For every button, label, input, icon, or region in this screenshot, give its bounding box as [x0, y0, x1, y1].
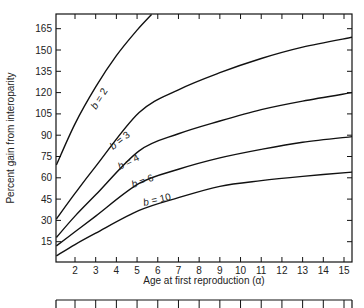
chart: 153045607590105120135150165 234567891011…	[0, 0, 364, 308]
x-tick-label: 12	[276, 265, 288, 276]
y-tick-label: 90	[41, 130, 53, 141]
lower-panel-frame	[56, 300, 352, 308]
curve	[56, 37, 352, 219]
top-axis-ticks	[75, 14, 344, 19]
curve	[56, 172, 352, 256]
curve-label: b = 4	[116, 152, 141, 172]
x-tick-label: 15	[338, 265, 350, 276]
x-tick-label: 2	[72, 265, 78, 276]
x-tick-label: 5	[134, 265, 140, 276]
x-axis-ticks: 23456789101112131415	[72, 257, 350, 276]
plot-frame	[56, 14, 352, 262]
x-tick-label: 13	[297, 265, 309, 276]
y-axis-ticks: 153045607590105120135150165	[35, 23, 61, 247]
x-tick-label: 4	[114, 265, 120, 276]
y-tick-label: 120	[35, 87, 52, 98]
curve	[56, 137, 352, 246]
y-tick-label: 30	[41, 215, 53, 226]
y-axis-title: Percent gain from interoparity	[5, 72, 16, 203]
y-tick-label: 45	[41, 194, 53, 205]
curve-label: b = 10	[142, 191, 172, 208]
y-tick-label: 75	[41, 151, 53, 162]
y-tick-label: 60	[41, 172, 53, 183]
curve-label: b = 3	[107, 129, 132, 152]
curve-label: b = 2	[88, 86, 109, 111]
y-tick-label: 135	[35, 66, 52, 77]
y-tick-label: 165	[35, 23, 52, 34]
lower-panel-ticks	[75, 300, 344, 308]
x-tick-label: 14	[318, 265, 330, 276]
curve	[56, 93, 352, 238]
curve-label: b = 6	[130, 172, 155, 190]
right-axis-ticks	[347, 29, 352, 242]
x-tick-label: 3	[93, 265, 99, 276]
y-tick-label: 15	[41, 236, 53, 247]
curves	[56, 15, 352, 256]
x-axis-title: Age at first reproduction (α)	[143, 275, 264, 286]
y-tick-label: 105	[35, 108, 52, 119]
y-tick-label: 150	[35, 45, 52, 56]
